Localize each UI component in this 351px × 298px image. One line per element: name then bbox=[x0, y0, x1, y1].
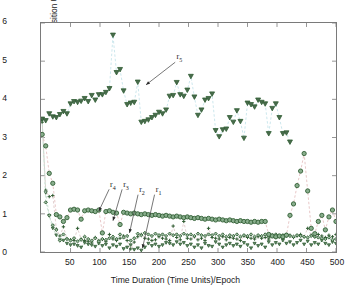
data-point bbox=[303, 243, 306, 246]
data-point bbox=[288, 241, 291, 244]
data-point bbox=[154, 243, 157, 246]
series-r1 bbox=[41, 119, 336, 252]
data-point bbox=[298, 169, 302, 173]
data-point bbox=[310, 244, 313, 247]
data-point bbox=[172, 244, 175, 247]
series-r5 bbox=[41, 33, 292, 144]
data-point bbox=[334, 233, 336, 236]
data-point bbox=[303, 235, 306, 238]
data-point bbox=[62, 225, 65, 228]
data-point bbox=[65, 242, 68, 245]
data-point bbox=[264, 246, 267, 249]
data-point bbox=[309, 226, 313, 230]
data-point bbox=[93, 98, 98, 102]
series-r4 bbox=[41, 132, 336, 239]
data-point bbox=[43, 119, 48, 123]
data-point bbox=[217, 135, 222, 139]
series-line bbox=[42, 35, 290, 142]
data-point bbox=[225, 244, 228, 247]
data-point bbox=[108, 237, 111, 240]
data-point bbox=[101, 245, 104, 248]
data-point bbox=[154, 232, 157, 235]
data-point bbox=[313, 232, 317, 236]
data-point bbox=[181, 94, 186, 98]
annotation-leader-line bbox=[146, 62, 175, 85]
annotation-r1: r1 bbox=[156, 186, 162, 196]
data-point bbox=[157, 245, 160, 248]
data-point bbox=[161, 233, 164, 236]
data-point bbox=[200, 234, 203, 237]
data-point bbox=[200, 247, 203, 250]
data-point bbox=[203, 98, 208, 102]
data-point bbox=[306, 236, 309, 239]
y-tick-label: 2 bbox=[0, 171, 7, 180]
x-tick-label: 500 bbox=[317, 258, 351, 267]
data-point bbox=[232, 234, 235, 237]
data-point bbox=[291, 202, 295, 206]
data-point bbox=[61, 219, 65, 223]
data-point bbox=[278, 243, 281, 246]
data-point bbox=[94, 245, 97, 248]
data-point bbox=[266, 132, 271, 136]
data-point bbox=[270, 106, 275, 110]
series-line bbox=[42, 134, 336, 236]
data-point bbox=[129, 239, 132, 242]
data-point bbox=[199, 108, 204, 112]
y-tick-label: 5 bbox=[0, 56, 7, 65]
data-point bbox=[211, 245, 214, 248]
data-point bbox=[174, 80, 179, 84]
data-point bbox=[213, 129, 218, 133]
annotation-arrowhead bbox=[112, 217, 115, 221]
data-point bbox=[44, 144, 48, 148]
data-point bbox=[225, 235, 228, 238]
data-point bbox=[221, 246, 224, 249]
data-point bbox=[334, 219, 336, 223]
data-point bbox=[260, 234, 263, 237]
data-point bbox=[114, 71, 119, 75]
data-point bbox=[161, 244, 164, 247]
data-point bbox=[317, 243, 320, 246]
data-point bbox=[228, 234, 231, 237]
y-tick-label: 1 bbox=[0, 210, 7, 219]
data-point bbox=[76, 245, 79, 248]
annotation-arrowhead bbox=[129, 229, 132, 233]
data-point bbox=[47, 171, 51, 175]
data-point bbox=[125, 103, 130, 107]
data-point bbox=[161, 237, 164, 240]
data-point bbox=[263, 219, 267, 223]
chart-figure: Error (End-Effector position wrt Goal po… bbox=[0, 0, 351, 298]
data-point bbox=[295, 183, 299, 187]
data-point bbox=[89, 93, 94, 97]
data-point bbox=[263, 102, 268, 106]
data-point bbox=[186, 245, 189, 248]
data-point bbox=[147, 237, 150, 240]
data-point bbox=[207, 227, 210, 230]
plot-area bbox=[40, 22, 337, 253]
data-point bbox=[330, 208, 334, 212]
annotation-r5: r5 bbox=[177, 53, 183, 63]
data-point bbox=[207, 245, 210, 248]
data-point bbox=[292, 244, 295, 247]
data-point bbox=[48, 195, 51, 198]
data-point bbox=[239, 245, 242, 248]
data-point bbox=[126, 246, 129, 249]
data-point bbox=[185, 88, 190, 92]
data-point bbox=[277, 116, 282, 120]
data-point bbox=[80, 246, 83, 249]
plot-canvas bbox=[41, 23, 336, 252]
data-point bbox=[64, 112, 69, 116]
data-point bbox=[140, 249, 143, 252]
data-point bbox=[214, 232, 217, 235]
data-point bbox=[62, 233, 65, 236]
data-point bbox=[75, 208, 79, 212]
data-point bbox=[257, 245, 260, 248]
data-point bbox=[179, 238, 182, 241]
data-point bbox=[323, 228, 327, 232]
data-point bbox=[284, 233, 288, 237]
data-point bbox=[110, 33, 115, 37]
data-point bbox=[133, 240, 136, 243]
data-point bbox=[249, 233, 252, 236]
data-point bbox=[136, 247, 139, 250]
data-point bbox=[168, 239, 171, 242]
data-point bbox=[327, 244, 330, 247]
